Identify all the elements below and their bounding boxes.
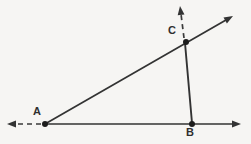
vertex-dot-c — [183, 39, 189, 45]
vertex-label-b: B — [186, 127, 194, 138]
arrowhead-up-dashed — [178, 6, 185, 15]
arrowhead-left-dashed — [7, 121, 16, 128]
vertex-label-a: A — [33, 106, 41, 117]
ray-ac-line — [45, 20, 226, 124]
arrowhead-right-horizontal — [232, 121, 241, 128]
segment-cb-line — [185, 43, 192, 123]
vertex-dot-a — [42, 121, 48, 127]
dashed-above-c-line — [181, 14, 184, 38]
geometry-figure: A B C — [0, 0, 251, 144]
vertex-label-c: C — [168, 25, 176, 36]
figure-canvas — [0, 0, 251, 144]
arrowhead-upper-right-diagonal — [224, 16, 233, 23]
